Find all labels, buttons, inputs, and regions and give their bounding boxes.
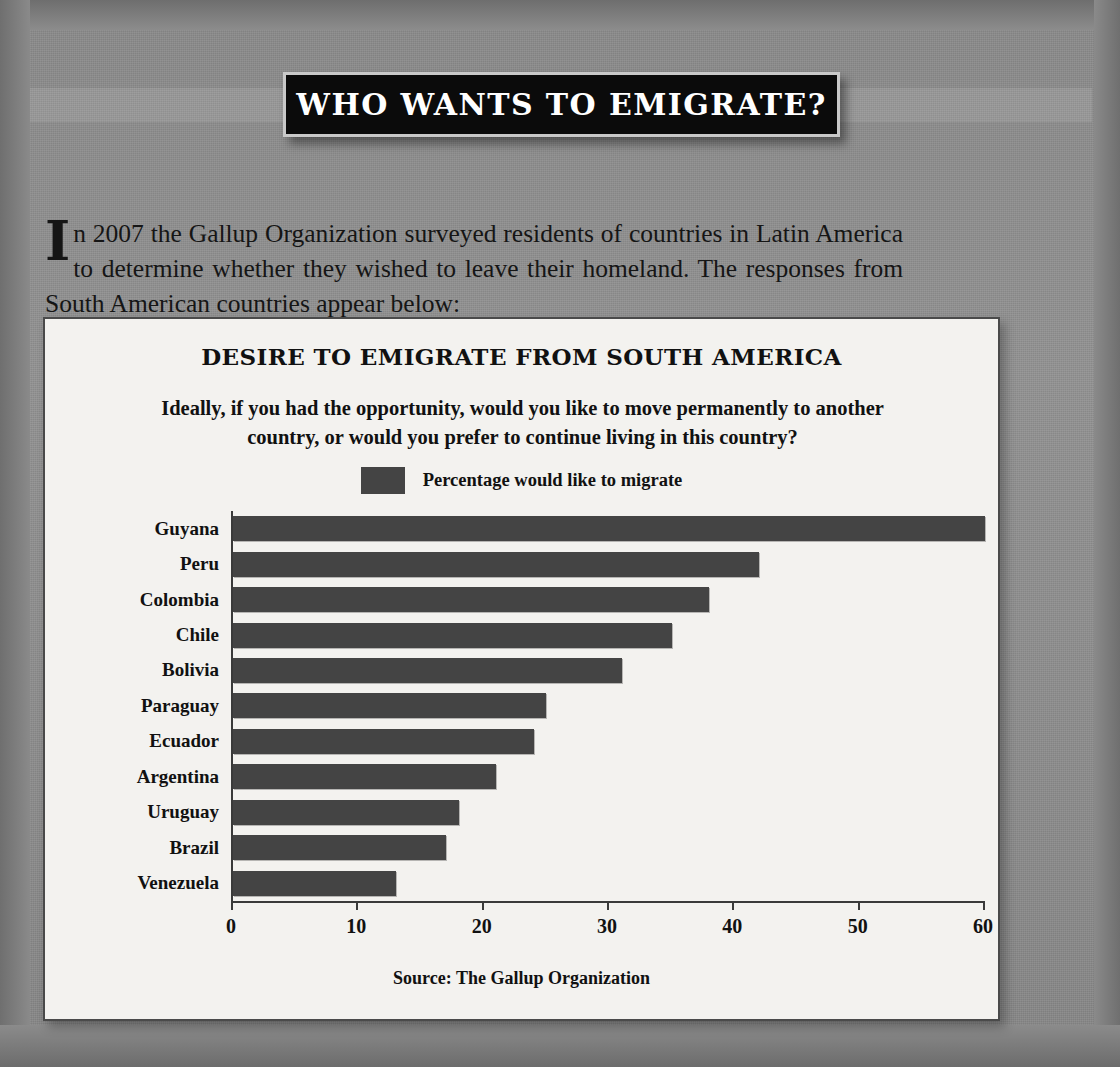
bar (233, 552, 759, 577)
legend-label: Percentage would like to migrate (423, 470, 683, 491)
bar (233, 693, 546, 718)
bars-container (231, 511, 998, 901)
x-axis-tick (231, 901, 233, 910)
x-axis-tick (983, 901, 985, 910)
x-axis: 0102030405060 (231, 901, 983, 902)
page-edge-top (0, 0, 1120, 30)
bar-row (233, 617, 998, 652)
bar (233, 835, 446, 860)
intro-body-text: n 2007 the Gallup Organization surveyed … (45, 219, 903, 318)
plot-area: GuyanaPeruColombiaChileBoliviaParaguayEc… (45, 511, 998, 901)
legend-swatch (361, 467, 405, 494)
bar-row (233, 511, 998, 546)
bar-row (233, 759, 998, 794)
bar (233, 623, 672, 648)
page-edge-left (0, 0, 30, 1067)
category-label: Peru (45, 546, 231, 581)
chart-subtitle: Ideally, if you had the opportunity, wou… (155, 394, 890, 452)
intro-paragraph: In 2007 the Gallup Organization surveyed… (45, 216, 903, 321)
bar-row (233, 795, 998, 830)
x-axis-tick-label: 20 (472, 915, 492, 938)
bar-row (233, 546, 998, 581)
x-axis-tick (732, 901, 734, 910)
category-label: Guyana (45, 511, 231, 546)
category-label: Venezuela (45, 865, 231, 900)
x-axis-tick-label: 30 (597, 915, 617, 938)
category-label: Uruguay (45, 795, 231, 830)
category-axis-labels: GuyanaPeruColombiaChileBoliviaParaguayEc… (45, 511, 231, 901)
chart-legend: Percentage would like to migrate (45, 467, 998, 494)
page-title: WHO WANTS TO EMIGRATE? (296, 87, 826, 122)
category-label: Paraguay (45, 688, 231, 723)
chart-panel: DESIRE TO EMIGRATE FROM SOUTH AMERICA Id… (43, 317, 1000, 1021)
x-axis-tick-label: 10 (346, 915, 366, 938)
category-label: Argentina (45, 759, 231, 794)
page-edge-right (1094, 0, 1120, 1067)
bar (233, 587, 709, 612)
bar (233, 800, 459, 825)
category-label: Ecuador (45, 724, 231, 759)
category-label: Brazil (45, 830, 231, 865)
chart-title: DESIRE TO EMIGRATE FROM SOUTH AMERICA (45, 343, 998, 370)
x-axis-tick (356, 901, 358, 910)
x-axis-tick-label: 40 (722, 915, 742, 938)
bar (233, 658, 622, 683)
intro-dropcap: I (45, 218, 70, 264)
x-axis-tick (607, 901, 609, 910)
bar-row (233, 688, 998, 723)
bar (233, 764, 496, 789)
bar-row (233, 724, 998, 759)
x-axis-tick-label: 0 (226, 915, 236, 938)
chart-source: Source: The Gallup Organization (45, 968, 998, 989)
bar (233, 871, 396, 896)
bar-row (233, 865, 998, 900)
x-axis-tick-label: 60 (973, 915, 993, 938)
page-title-banner: WHO WANTS TO EMIGRATE? (283, 72, 840, 137)
bar (233, 516, 985, 541)
category-label: Colombia (45, 582, 231, 617)
category-label: Chile (45, 617, 231, 652)
x-axis-tick-label: 50 (848, 915, 868, 938)
x-axis-tick (858, 901, 860, 910)
bar-row (233, 653, 998, 688)
x-axis-tick (482, 901, 484, 910)
page-edge-bottom (0, 1025, 1120, 1067)
category-label: Bolivia (45, 653, 231, 688)
bar (233, 729, 534, 754)
bar-row (233, 582, 998, 617)
bar-row (233, 830, 998, 865)
